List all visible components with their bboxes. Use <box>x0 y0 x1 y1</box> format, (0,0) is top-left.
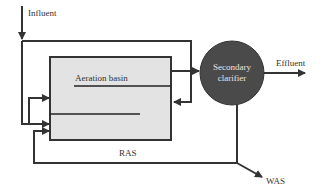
influent-step-feed-line <box>29 98 49 124</box>
clarifier-label-line2: clarifier <box>218 73 246 83</box>
was-arrow <box>237 163 262 177</box>
effluent-label: Effluent <box>276 58 306 68</box>
clarifier-label-line1: Secondary <box>213 62 251 72</box>
influent-feed-line <box>22 41 49 124</box>
aeration-basin-label: Aeration basin <box>75 73 128 83</box>
aeration-basin <box>50 57 171 140</box>
process-diagram: Influent Aeration basin Secondary clarif… <box>0 0 326 194</box>
influent-label: Influent <box>28 8 57 18</box>
was-label: WAS <box>266 176 285 186</box>
ras-label: RAS <box>119 148 137 158</box>
